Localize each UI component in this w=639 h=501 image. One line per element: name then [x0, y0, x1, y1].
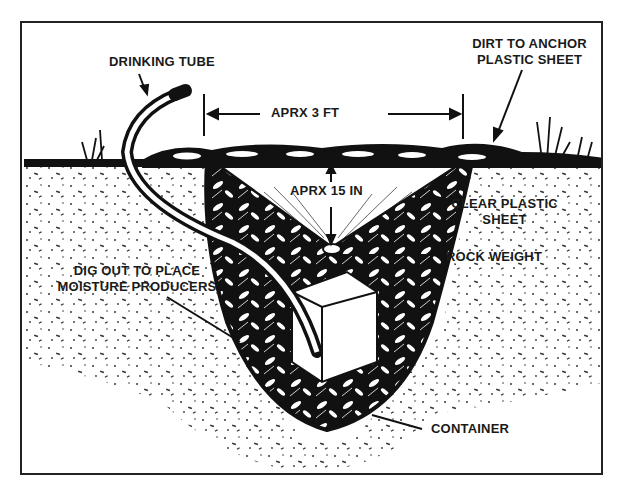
label-clear-plastic-line1: CLEAR PLASTIC	[447, 196, 562, 212]
label-dig-out: DIG OUT TO PLACE MOISTURE PRODUCERS	[37, 263, 237, 295]
label-drinking-tube: DRINKING TUBE	[109, 54, 215, 70]
label-clear-plastic-line2: SHEET	[447, 212, 562, 228]
diagram-frame: DRINKING TUBE DIRT TO ANCHOR PLASTIC SHE…	[20, 21, 603, 475]
label-dig-out-line2: MOISTURE PRODUCERS	[37, 279, 237, 295]
label-depth-dimension: APRX 15 IN	[290, 183, 363, 199]
label-dirt-anchor-line2: PLASTIC SHEET	[462, 52, 597, 68]
label-rock-weight: ROCK WEIGHT	[446, 249, 542, 265]
label-clear-plastic-sheet: CLEAR PLASTIC SHEET	[447, 196, 562, 228]
label-container: CONTAINER	[431, 421, 509, 437]
rock-weight	[323, 244, 341, 254]
label-width-dimension: APRX 3 FT	[271, 105, 339, 121]
label-dig-out-line1: DIG OUT TO PLACE	[37, 263, 237, 279]
label-dirt-anchor: DIRT TO ANCHOR PLASTIC SHEET	[462, 36, 597, 68]
label-dirt-anchor-line1: DIRT TO ANCHOR	[462, 36, 597, 52]
ground-surface	[24, 144, 603, 168]
